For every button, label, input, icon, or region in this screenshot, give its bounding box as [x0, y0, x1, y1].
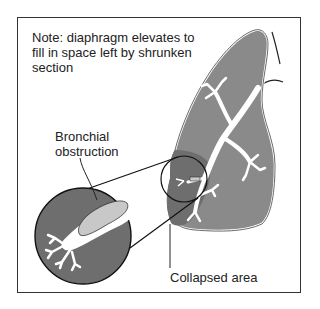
bronchial-obstruction-label: Bronchial obstruction	[55, 129, 119, 159]
collapsed-area-label: Collapsed area	[170, 270, 257, 285]
zoom-connector-top	[87, 157, 178, 189]
bronchial-label-line2: obstruction	[55, 144, 119, 159]
trachea-line	[272, 32, 280, 64]
bronchial-label-line1: Bronchial	[55, 129, 119, 144]
magnified-view	[35, 188, 136, 284]
small-obstruction	[190, 177, 200, 181]
note-label: Note: diaphragm elevates to fill in spac…	[32, 30, 202, 75]
